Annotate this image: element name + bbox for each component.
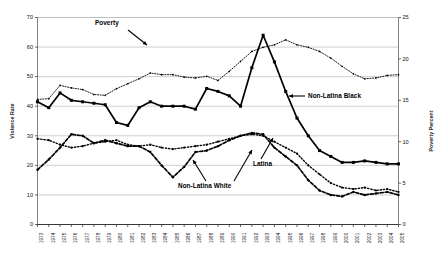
annotation-non-latina-white: Non-Latina White xyxy=(178,182,231,189)
violence-poverty-chart: Violence Rate Poverty Percent 0102030405… xyxy=(0,0,435,253)
plot-canvas xyxy=(0,0,435,253)
annotation-poverty: Poverty xyxy=(95,19,119,26)
annotation-non-latina-black: Non-Latina Black xyxy=(308,92,361,99)
annotation-latina: Latina xyxy=(253,160,272,167)
